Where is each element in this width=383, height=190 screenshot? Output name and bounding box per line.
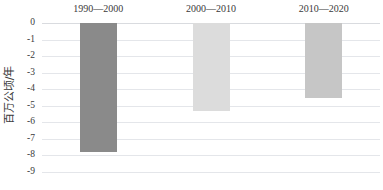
- y-axis-tick-label: -5: [9, 101, 35, 111]
- category-label: 2000—2010: [151, 4, 271, 14]
- category-label: 2010—2020: [264, 4, 383, 14]
- gridline: [42, 172, 380, 173]
- y-axis-tick-label: -1: [9, 35, 35, 45]
- y-axis-tick-label: -7: [9, 134, 35, 144]
- bar-chart: 百万公顷/年 0-1-2-3-4-5-6-7-8-9 1990—20002000…: [0, 0, 383, 190]
- bar[interactable]: [305, 23, 342, 98]
- y-axis-tick-label: -3: [9, 68, 35, 78]
- bar[interactable]: [80, 23, 117, 152]
- category-label: 1990—2000: [38, 4, 158, 14]
- y-axis-tick-label: -6: [9, 118, 35, 128]
- bar[interactable]: [193, 23, 230, 111]
- y-axis-tick-label: -4: [9, 84, 35, 94]
- plot-area: 0-1-2-3-4-5-6-7-8-9: [42, 23, 380, 172]
- y-axis-tick-label: -8: [9, 151, 35, 161]
- y-axis-tick-label: -9: [9, 167, 35, 177]
- y-axis-tick-label: -2: [9, 51, 35, 61]
- y-axis-tick-label: 0: [9, 18, 35, 28]
- y-axis-title: 百万公顷/年: [0, 0, 16, 190]
- gridline: [42, 155, 380, 156]
